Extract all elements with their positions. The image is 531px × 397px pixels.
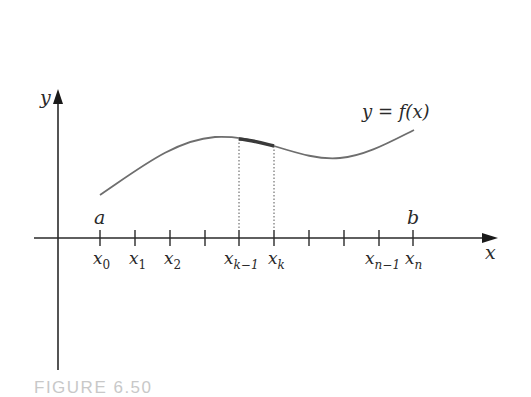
svg-text:xn: xn [405, 248, 422, 272]
function-label: y = f(x) [361, 101, 430, 122]
function-curve [100, 130, 414, 195]
svg-text:x2: x2 [164, 248, 181, 272]
endpoint-b-label: b [407, 206, 419, 228]
y-axis-arrow-icon [53, 89, 63, 104]
endpoint-a-label: a [94, 206, 105, 228]
y-axis-label: y [39, 86, 51, 108]
svg-text:xk−1: xk−1 [224, 248, 259, 272]
highlighted-arc-segment [239, 139, 274, 146]
figure-caption: FIGURE 6.50 [34, 378, 153, 397]
svg-text:xn−1: xn−1 [365, 248, 400, 272]
svg-text:x1: x1 [129, 248, 146, 272]
x-axis-label: x [485, 241, 496, 263]
svg-text:x0: x0 [93, 248, 110, 272]
svg-text:xk: xk [268, 248, 285, 272]
partition-labels: x0 x1 x2 xk−1 xk xn−1 xn [93, 248, 422, 272]
